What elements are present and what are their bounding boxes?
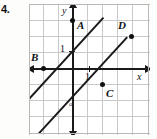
point-b-dot [41, 66, 46, 71]
point-d-dot [129, 34, 134, 39]
point-c-label: C [106, 87, 113, 99]
annotation-a: a [69, 100, 73, 108]
grid-frame-left [29, 4, 30, 135]
point-a-label: A [77, 19, 84, 31]
problem-number: 4. [1, 3, 10, 15]
grid-frame-bottom [29, 133, 149, 134]
coordinate-graph: y x 1 1 a A B C D [29, 4, 150, 135]
y-axis-tick [69, 51, 75, 52]
point-d-label: D [118, 19, 126, 31]
grid-frame-right [148, 4, 149, 135]
x-axis-label: x [137, 71, 141, 82]
y-axis-label: y [62, 5, 66, 16]
point-a-dot [70, 18, 75, 23]
x-tick-label-one: 1 [85, 71, 90, 82]
grid-frame-top [29, 4, 149, 5]
point-c-dot [100, 82, 105, 87]
y-tick-label-one: 1 [60, 43, 65, 54]
point-b-label: B [31, 51, 38, 63]
problem-figure: 4. [0, 0, 157, 139]
